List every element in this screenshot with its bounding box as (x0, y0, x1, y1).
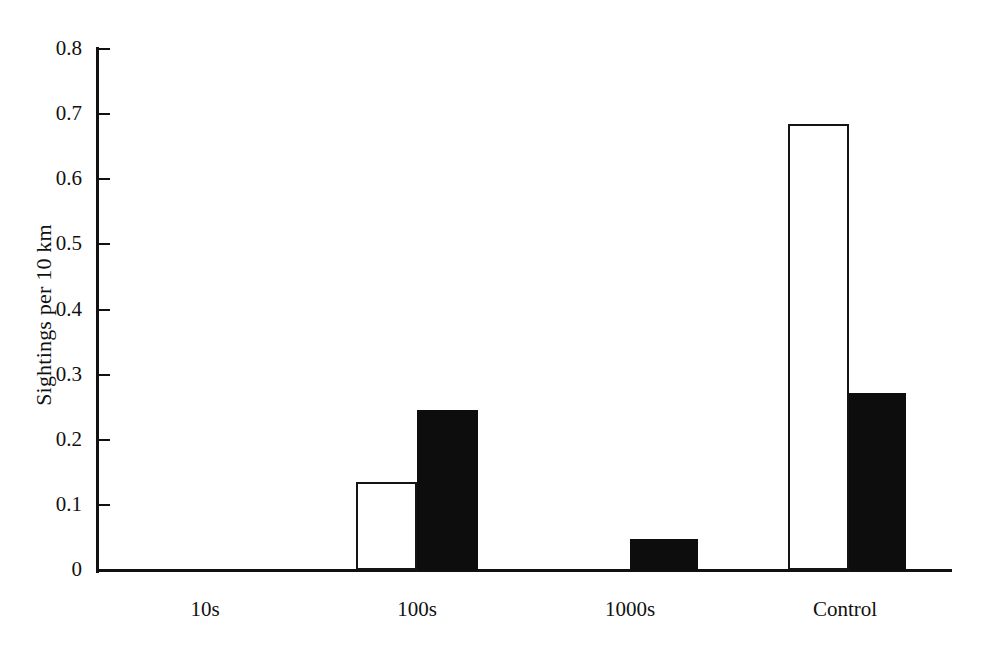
y-axis-tick-mark (99, 309, 110, 311)
y-axis-tick-label: 0.7 (0, 103, 82, 124)
y-axis-tick-mark (99, 178, 110, 180)
y-axis-tick-label: 0.4 (0, 299, 82, 320)
bar-open-100s (356, 482, 417, 570)
y-axis-tick-mark (99, 569, 110, 571)
x-axis-label-10s: 10s (125, 598, 285, 620)
x-axis-label-100s: 100s (337, 598, 497, 620)
y-axis-tick-label: 0 (0, 559, 82, 580)
x-axis-label-1000s: 1000s (550, 598, 710, 620)
bar-open-Control (788, 124, 849, 570)
x-axis-label-Control: Control (765, 598, 925, 620)
y-axis-tick-label: 0.6 (0, 168, 82, 189)
bar-filled-1000s (630, 539, 698, 570)
y-axis-tick-label: 0.5 (0, 233, 82, 254)
y-axis-tick-mark (99, 48, 110, 50)
y-axis-tick-label: 0.8 (0, 38, 82, 59)
y-axis-tick-mark (99, 243, 110, 245)
bar-chart: Sightings per 10 km 0.80.70.60.50.40.30.… (0, 0, 1006, 653)
y-axis-tick-mark (99, 439, 110, 441)
y-axis-tick-mark (99, 374, 110, 376)
y-axis-tick-mark (99, 504, 110, 506)
y-axis-tick-label: 0.2 (0, 429, 82, 450)
y-axis-tick-mark (99, 113, 110, 115)
bar-filled-Control (849, 393, 906, 570)
y-axis-tick-label: 0.1 (0, 494, 82, 515)
y-axis-tick-label: 0.3 (0, 364, 82, 385)
bar-filled-100s (417, 410, 478, 570)
